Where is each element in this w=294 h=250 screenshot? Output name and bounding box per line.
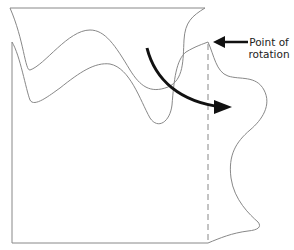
upper-sheet xyxy=(10,8,205,90)
point-of-rotation-label: Point of rotation xyxy=(244,36,294,60)
lower-sheet-right-curve xyxy=(208,42,267,243)
label-line-2: rotation xyxy=(244,48,294,60)
rotation-arrowhead-icon xyxy=(214,100,232,114)
pointer-arrowhead-icon xyxy=(213,36,225,48)
label-line-1: Point of xyxy=(244,36,294,48)
rotation-diagram: Point of rotation xyxy=(0,0,294,250)
